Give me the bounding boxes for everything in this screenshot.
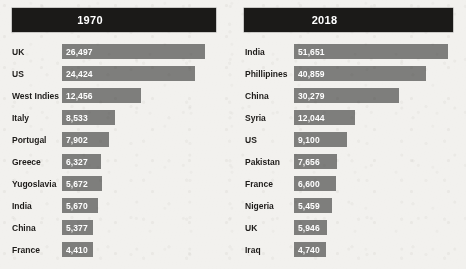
bar-row-label: Portugal [12, 129, 46, 151]
bar-row-label: Italy [12, 107, 29, 129]
bar-value-label: 5,459 [294, 201, 320, 211]
bar: 6,327 [62, 154, 101, 169]
bar-value-label: 7,656 [294, 157, 320, 167]
bar-value-label: 5,377 [62, 223, 88, 233]
panel-header-2018: 2018 [244, 8, 453, 32]
bar-row-label: UK [245, 217, 257, 239]
bar-row: India 5,670 [0, 195, 233, 217]
bar-row-label: US [245, 129, 257, 151]
bar-row-label: Pakistan [245, 151, 280, 173]
bar-row-label: France [12, 239, 40, 261]
bar-row-label: UK [12, 41, 24, 63]
bar-row: Yugoslavia 5,672 [0, 173, 233, 195]
bar-row-label: Phillipines [245, 63, 288, 85]
bar: 5,672 [62, 176, 102, 191]
bar-value-label: 7,902 [62, 135, 88, 145]
bar-row: Phillipines 40,859 [233, 63, 466, 85]
bar-row: China 30,279 [233, 85, 466, 107]
bar-value-label: 12,456 [62, 91, 93, 101]
bar-row: Portugal 7,902 [0, 129, 233, 151]
bar-rows-1970: UK 26,497 US 24,424 West Indies 12,456 I… [0, 41, 233, 261]
bar-value-label: 5,672 [62, 179, 88, 189]
bar: 30,279 [294, 88, 399, 103]
bar: 26,497 [62, 44, 205, 59]
bar-row-label: China [245, 85, 269, 107]
chart-panel-2018: 2018 India 51,651 Phillipines 40,859 Chi… [233, 0, 466, 269]
panel-header-1970: 1970 [12, 8, 216, 32]
bar-row-label: Nigeria [245, 195, 274, 217]
bar: 9,100 [294, 132, 347, 147]
bar: 5,377 [62, 220, 93, 235]
bar-row-label: France [245, 173, 273, 195]
bar: 51,651 [294, 44, 448, 59]
bar-row-label: US [12, 63, 24, 85]
bar-value-label: 24,424 [62, 69, 93, 79]
panel-header-label-2018: 2018 [312, 14, 338, 26]
chart-panels-container: 1970 UK 26,497 US 24,424 West Indies 12,… [0, 0, 466, 269]
bar-row: France 6,600 [233, 173, 466, 195]
bar-row: China 5,377 [0, 217, 233, 239]
bar-row: India 51,651 [233, 41, 466, 63]
bar-row: Iraq 4,740 [233, 239, 466, 261]
bar-row-label: India [12, 195, 32, 217]
bar-row: Pakistan 7,656 [233, 151, 466, 173]
bar: 12,456 [62, 88, 141, 103]
bar-value-label: 30,279 [294, 91, 325, 101]
bar: 7,902 [62, 132, 109, 147]
bar-value-label: 40,859 [294, 69, 325, 79]
bar-row-label: India [245, 41, 265, 63]
bar: 6,600 [294, 176, 336, 191]
bar: 8,533 [62, 110, 115, 125]
bar-row: US 9,100 [233, 129, 466, 151]
panel-header-label-1970: 1970 [77, 14, 103, 26]
bar-row: West Indies 12,456 [0, 85, 233, 107]
bar-row-label: China [12, 217, 36, 239]
bar: 40,859 [294, 66, 426, 81]
bar-value-label: 4,410 [62, 245, 88, 255]
bar-row: Nigeria 5,459 [233, 195, 466, 217]
bar-value-label: 6,600 [294, 179, 320, 189]
bar-row: Greece 6,327 [0, 151, 233, 173]
bar: 7,656 [294, 154, 337, 169]
bar-rows-2018: India 51,651 Phillipines 40,859 China 30… [233, 41, 466, 261]
bar-value-label: 8,533 [62, 113, 88, 123]
bar-value-label: 12,044 [294, 113, 325, 123]
bar-row: UK 5,946 [233, 217, 466, 239]
bar: 12,044 [294, 110, 355, 125]
bar-row: Italy 8,533 [0, 107, 233, 129]
bar: 5,670 [62, 198, 98, 213]
bar-value-label: 5,946 [294, 223, 320, 233]
bar: 5,459 [294, 198, 332, 213]
bar: 24,424 [62, 66, 195, 81]
bar-row-label: Greece [12, 151, 41, 173]
bar-row: UK 26,497 [0, 41, 233, 63]
bar-value-label: 5,670 [62, 201, 88, 211]
bar-value-label: 9,100 [294, 135, 320, 145]
bar-row-label: Syria [245, 107, 266, 129]
bar-row: Syria 12,044 [233, 107, 466, 129]
bar-row: US 24,424 [0, 63, 233, 85]
bar-value-label: 51,651 [294, 47, 325, 57]
bar-row-label: West Indies [12, 85, 59, 107]
bar-row: France 4,410 [0, 239, 233, 261]
bar: 4,410 [62, 242, 93, 257]
bar-row-label: Yugoslavia [12, 173, 56, 195]
bar: 4,740 [294, 242, 326, 257]
bar-value-label: 4,740 [294, 245, 320, 255]
bar-value-label: 6,327 [62, 157, 88, 167]
bar-row-label: Iraq [245, 239, 261, 261]
bar: 5,946 [294, 220, 327, 235]
bar-value-label: 26,497 [62, 47, 93, 57]
chart-panel-1970: 1970 UK 26,497 US 24,424 West Indies 12,… [0, 0, 233, 269]
